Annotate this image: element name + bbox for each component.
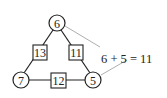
sum-left-value: 13 xyxy=(34,46,46,60)
magic-triangle-diagram: 13 11 12 6 7 5 6 + 5 = 11 xyxy=(0,0,167,98)
node-bottom-right: 5 xyxy=(85,72,101,88)
sum-box-bottom: 12 xyxy=(51,73,66,88)
node-top: 6 xyxy=(49,15,65,31)
node-bottom-left-value: 7 xyxy=(18,74,24,88)
sum-bottom-value: 12 xyxy=(53,74,65,88)
sum-right-value: 11 xyxy=(70,46,82,60)
node-top-value: 6 xyxy=(54,17,60,31)
node-bottom-right-value: 5 xyxy=(90,74,96,88)
node-bottom-left: 7 xyxy=(13,72,29,88)
sum-annotation: 6 + 5 = 11 xyxy=(101,52,152,66)
sum-box-right: 11 xyxy=(69,45,83,60)
sum-box-left: 13 xyxy=(33,45,47,60)
